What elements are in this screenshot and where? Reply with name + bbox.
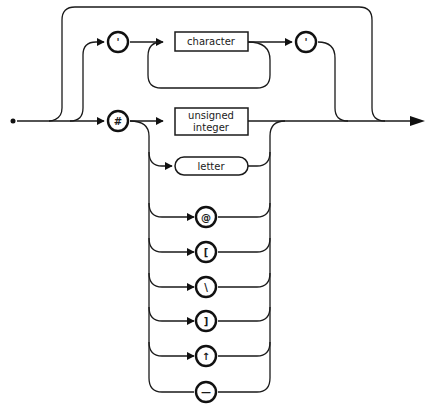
character-nonterminal: character [175, 32, 248, 51]
unsigned-label-line1: unsigned [188, 110, 234, 121]
letter-nonterminal: letter [175, 157, 248, 175]
quote-branch-out [318, 42, 348, 121]
quote-open-terminal: ' [108, 32, 128, 52]
letter-label: letter [197, 161, 225, 172]
rbracket-terminal: ] [196, 311, 216, 331]
unsigned-integer-nonterminal: unsigned integer [175, 108, 248, 135]
dash-text: — [201, 387, 211, 398]
lbracket-text: [ [204, 247, 209, 258]
at-terminal: @ [196, 207, 216, 227]
unsigned-label-line2: integer [193, 122, 230, 133]
quote-branch-in [70, 42, 104, 121]
dash-terminal: — [196, 382, 216, 402]
hash-text: # [114, 116, 122, 127]
character-label: character [187, 36, 236, 47]
syntax-diagram: ' character ' # unsigned integer letter … [0, 0, 432, 411]
uparrow-terminal: ↑ [196, 346, 216, 366]
quote-close-terminal: ' [296, 32, 316, 52]
start-dot [11, 119, 16, 124]
quote-open-text: ' [116, 37, 119, 48]
at-text: @ [201, 212, 211, 223]
backslash-text: \ [204, 282, 208, 293]
hash-terminal: # [108, 111, 128, 131]
rbracket-text: ] [204, 316, 209, 327]
uparrow-text: ↑ [202, 351, 210, 362]
backslash-terminal: \ [196, 277, 216, 297]
quote-close-text: ' [304, 37, 307, 48]
lbracket-terminal: [ [196, 242, 216, 262]
